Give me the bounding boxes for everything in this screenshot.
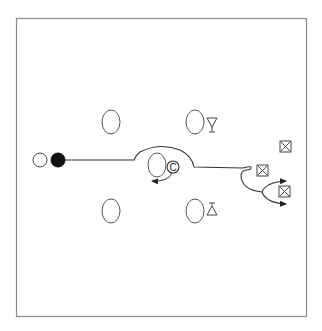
coach-marker: C: [167, 161, 179, 173]
filled-circle-marker: [51, 153, 65, 167]
boxed-x-icon-bottom: [279, 186, 290, 197]
boxed-x-icon-middle: [257, 165, 268, 176]
coach-label: C: [169, 162, 176, 173]
boxed-x-icon-top: [280, 141, 291, 152]
open-circle-marker: [33, 153, 47, 167]
drill-diagram: Drill diagram C: [0, 0, 322, 331]
